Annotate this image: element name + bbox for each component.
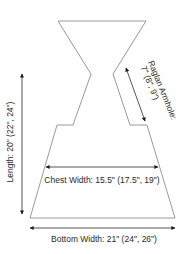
bottom-width-label: Bottom Width: 21" (24", 26") (51, 234, 157, 244)
garment-outline (30, 21, 175, 218)
chest-width-label: Chest Width: 15.5" (17.5", 19") (44, 175, 160, 185)
length-label: Length: 20" (22", 24") (5, 101, 15, 182)
sweater-schematic: Raglan Armhole: 7" (8", 9") Length: 20" … (0, 0, 187, 254)
